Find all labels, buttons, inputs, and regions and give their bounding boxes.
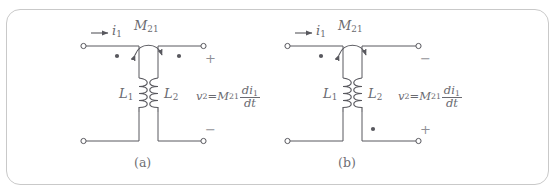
current-label-a: i1 (112, 24, 122, 37)
secondary-inductor-label-b: L2 (368, 87, 382, 100)
primary-inductor-label-a: L1 (119, 87, 133, 100)
primary-coil-b (343, 78, 351, 112)
primary-wire-bottom-b (289, 112, 344, 141)
equation-b: v2=M21 di1 dt (398, 85, 462, 109)
equation-a-equals: = (207, 91, 217, 103)
mutual-inductance-label-a: M21 (134, 19, 159, 32)
equation-b-numerator: di1 (442, 85, 462, 97)
primary-inductor-label-b: L1 (323, 87, 337, 100)
terminal-bottom-right-b (416, 138, 421, 143)
polarity-sign-bottom-b: + (420, 123, 431, 136)
terminal-top-right-a (201, 43, 206, 48)
equation-b-lhs: v (398, 91, 405, 103)
primary-wire-bottom-a (85, 112, 140, 141)
secondary-coil-a (150, 78, 158, 112)
equation-a-numerator: di1 (240, 85, 260, 97)
polarity-dot-primary-a (115, 54, 119, 58)
equation-a: v2=M21 di1 dt (196, 85, 260, 109)
mutual-inductance-label-b: M21 (338, 19, 363, 32)
equation-b-denominator: dt (444, 98, 460, 110)
secondary-wire-top-a (158, 46, 203, 78)
equation-a-lhs: v (196, 91, 203, 103)
terminal-top-right-b (416, 43, 421, 48)
equation-a-fraction: di1 dt (240, 85, 260, 109)
secondary-inductor-label-a: L2 (164, 87, 178, 100)
polarity-sign-top-b: − (420, 52, 431, 65)
equation-a-coef: M (217, 91, 229, 103)
primary-wire-top-b (289, 46, 344, 78)
polarity-dot-primary-b (319, 54, 323, 58)
caption-b: (b) (338, 155, 356, 170)
circuit-diagram-canvas (0, 0, 557, 195)
terminal-top-left-b (285, 43, 290, 48)
equation-a-denominator: dt (242, 98, 258, 110)
primary-wire-top-a (85, 46, 140, 78)
secondary-wire-bottom-a (158, 112, 203, 141)
terminal-bottom-right-a (201, 138, 206, 143)
secondary-coil-b (354, 78, 362, 112)
panel-a-circuit (81, 33, 206, 144)
figure-root: i1 M21 L1 L2 + − v2=M21 di1 dt (a) i1 M2… (0, 0, 557, 195)
equation-b-equals: = (409, 91, 419, 103)
polarity-dot-secondary-a (177, 54, 181, 58)
caption-a: (a) (134, 155, 151, 170)
polarity-sign-bottom-a: − (205, 123, 216, 136)
terminal-bottom-left-a (81, 138, 86, 143)
primary-coil-a (139, 78, 147, 112)
secondary-wire-top-b (362, 46, 418, 78)
current-label-b: i1 (316, 24, 326, 37)
polarity-sign-top-a: + (205, 52, 216, 65)
terminal-top-left-a (81, 43, 86, 48)
secondary-wire-bottom-b (362, 112, 418, 141)
polarity-dot-secondary-b (371, 127, 375, 131)
equation-b-fraction: di1 dt (442, 85, 462, 109)
equation-b-coef: M (419, 91, 431, 103)
terminal-bottom-left-b (285, 138, 290, 143)
